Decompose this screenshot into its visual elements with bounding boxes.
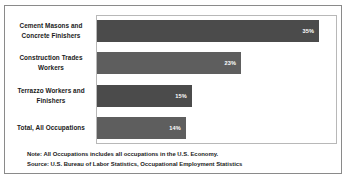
category-label: Construction Trades Workers [9, 47, 93, 79]
bar-value-label: 14% [169, 125, 186, 131]
source-text: Source: U.S. Bureau of Labor Statistics,… [27, 160, 327, 170]
bar[interactable]: 14% [97, 117, 186, 139]
chart-row: Terrazzo Workers and Finishers 15% [5, 80, 343, 112]
category-label-line: Concrete Finishers [20, 31, 83, 41]
bar[interactable]: 23% [97, 52, 241, 74]
category-label-line: Terrazzo Workers and [17, 86, 84, 96]
category-label: Total, All Occupations [9, 112, 93, 144]
bar-track: 35% [97, 15, 337, 47]
bar-track: 23% [97, 47, 337, 79]
category-label-line: Total, All Occupations [17, 123, 85, 133]
bar[interactable]: 35% [97, 20, 319, 42]
chart-row: Construction Trades Workers 23% [5, 47, 343, 79]
note-text: Note: All Occupations includes all occup… [27, 150, 327, 160]
bar-value-label: 35% [303, 28, 320, 34]
bar-value-label: 15% [175, 93, 192, 99]
bar-value-label: 23% [225, 60, 242, 66]
bar-rows: Cement Masons and Concrete Finishers 35%… [5, 15, 343, 144]
category-label-line: Finishers [17, 96, 84, 106]
chart-figure-frame: Cement Masons and Concrete Finishers 35%… [4, 5, 342, 174]
chart-row: Total, All Occupations 14% [5, 112, 343, 144]
category-label: Cement Masons and Concrete Finishers [9, 15, 93, 47]
chart-row: Cement Masons and Concrete Finishers 35% [5, 15, 343, 47]
category-label-line: Cement Masons and [20, 21, 83, 31]
bar[interactable]: 15% [97, 85, 192, 107]
category-label: Terrazzo Workers and Finishers [9, 80, 93, 112]
category-label-line: Workers [19, 63, 82, 73]
chart-footnotes: Note: All Occupations includes all occup… [27, 150, 327, 169]
bar-track: 14% [97, 112, 337, 144]
bar-track: 15% [97, 80, 337, 112]
category-label-line: Construction Trades [19, 53, 82, 63]
